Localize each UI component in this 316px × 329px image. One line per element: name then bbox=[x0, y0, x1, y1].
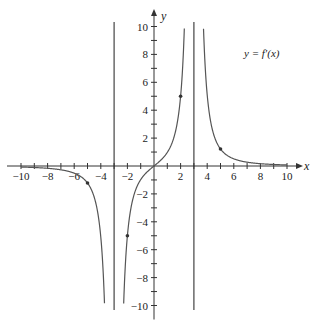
chart: −10−8−6−4−2246810−10−8−6−4−2246810 y = f… bbox=[0, 0, 316, 329]
y-tick-label: −2 bbox=[136, 188, 148, 200]
function-label: y = f′(x) bbox=[243, 47, 280, 60]
data-point bbox=[126, 234, 130, 238]
y-tick-label: −10 bbox=[131, 300, 149, 312]
x-tick-label: −10 bbox=[12, 170, 30, 182]
y-axis-arrow-icon bbox=[151, 9, 157, 16]
data-point bbox=[219, 147, 223, 151]
y-tick-label: −4 bbox=[136, 216, 148, 228]
x-tick-label: 10 bbox=[282, 170, 294, 182]
x-tick-label: −2 bbox=[122, 170, 134, 182]
y-tick-label: −6 bbox=[136, 244, 148, 256]
x-tick-label: −4 bbox=[95, 170, 107, 182]
x-tick-label: 2 bbox=[178, 170, 184, 182]
x-tick-label: −8 bbox=[42, 170, 54, 182]
y-tick-label: 2 bbox=[143, 132, 149, 144]
x-tick-label: 8 bbox=[258, 170, 264, 182]
y-tick-label: 4 bbox=[143, 104, 149, 116]
data-point bbox=[86, 181, 90, 185]
y-axis-label: y bbox=[160, 9, 167, 23]
y-tick-label: 6 bbox=[143, 76, 149, 88]
x-axis-arrow-icon bbox=[296, 163, 303, 169]
y-tick-label: −8 bbox=[136, 272, 148, 284]
y-tick-label: 10 bbox=[137, 21, 149, 33]
x-tick-label: 6 bbox=[231, 170, 237, 182]
x-axis-label: x bbox=[303, 159, 310, 173]
y-tick-label: 8 bbox=[143, 48, 149, 60]
x-tick-label: 4 bbox=[204, 170, 210, 182]
curve-branch bbox=[21, 167, 104, 303]
data-point bbox=[179, 94, 183, 98]
